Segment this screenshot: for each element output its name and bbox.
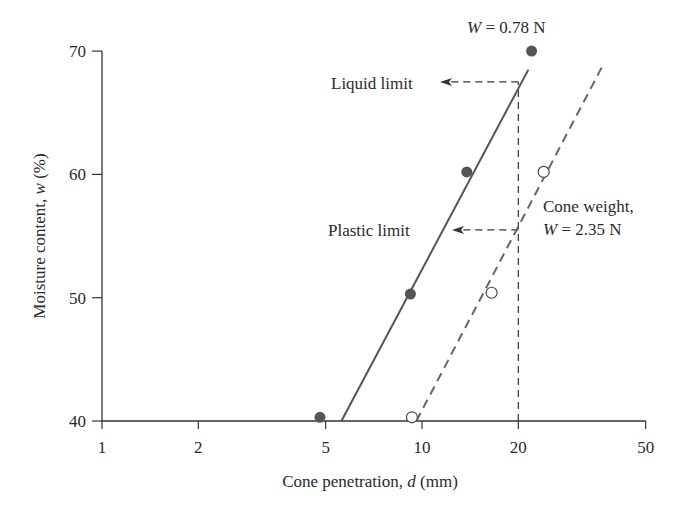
x-tick-label: 50 [637,438,654,457]
reference-lines [440,78,518,421]
y-tick-label: 50 [69,289,86,308]
open-data-point [406,412,417,423]
filled-data-point [526,46,537,57]
annotation-plastic-limit: Plastic limit [328,221,410,240]
x-tick-label: 20 [510,438,527,457]
y-tick-label: 70 [69,42,86,61]
annotation-liquid-limit: Liquid limit [331,74,413,93]
filled-data-point [405,289,416,300]
x-tick-label: 10 [414,438,431,457]
arrow-left-icon [440,78,452,86]
y-tick-label: 60 [69,165,86,184]
x-tick-label: 2 [194,438,203,457]
filled-data-point [461,166,472,177]
open-data-point [486,287,497,298]
fit-line-w235 [416,63,603,421]
x-tick-label: 5 [321,438,330,457]
annotation-w-235: W = 2.35 N [543,220,622,239]
fit-line-w078 [341,70,528,421]
y-axis-ticks: 40506070 [69,42,102,431]
filled-data-point [314,412,325,423]
x-axis-title: Cone penetration, d (mm) [282,472,458,491]
annotation-cone-weight: Cone weight, [543,197,634,216]
cone-penetration-chart: 125102050 40506070 Cone penetration, d (… [0,0,690,511]
fit-lines [341,63,603,421]
y-axis-title: Moisture content, w (%) [30,153,49,318]
arrow-left-icon [452,226,464,234]
x-axis-ticks: 125102050 [98,421,654,457]
annotation-w-078: W = 0.78 N [467,18,546,37]
x-tick-label: 1 [98,438,107,457]
y-tick-label: 40 [69,412,86,431]
open-data-point [538,166,549,177]
